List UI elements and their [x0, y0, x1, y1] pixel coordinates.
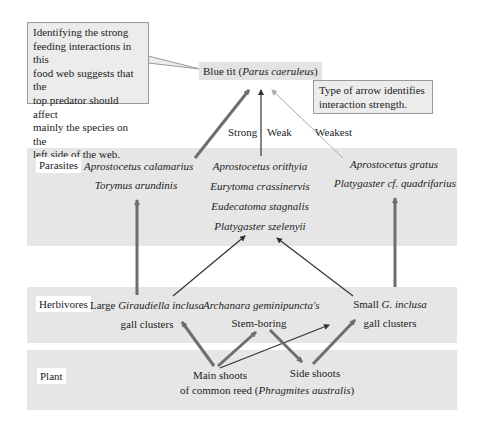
arrow-strong: [195, 90, 249, 158]
strong-label: Strong: [228, 125, 257, 139]
legend-line: interaction strength.: [319, 98, 427, 112]
weakest-label: Weakest: [315, 125, 352, 139]
arrow-small-to-platygaster: [277, 238, 353, 296]
herbivore-small-g-inclusa: Small G. inclusa: [350, 297, 430, 311]
plant-label: Plant: [37, 368, 66, 384]
herbivores-label: Herbivores: [36, 296, 91, 312]
plant-side-shoots: Side shoots: [280, 366, 350, 380]
parasite-aprostocetus-orithyia: Aprostocetus orithyia: [205, 159, 315, 173]
parasite-platygaster-quadrifarius: Platygaster cf. quadrifarius: [334, 176, 454, 190]
herbivore-prefix: Large: [90, 299, 118, 311]
plant-common-name: of common reed (: [180, 384, 259, 396]
herbivore-species: Giraudiella inclusa: [118, 299, 204, 311]
plant-latin-name: Phragmites australis: [259, 384, 351, 396]
parasite-eurytoma-crassinervis: Eurytoma crassinervis: [205, 179, 315, 193]
predator-latin: Parus caeruleus: [242, 65, 314, 77]
strong-interactions-callout: Identifying the strong feeding interacti…: [27, 22, 149, 104]
arrow-main-to-small: [220, 325, 329, 368]
callout-line: food web suggests that the: [33, 67, 143, 94]
parasite-aprostocetus-calamarius: Aprostocetus calamarius: [84, 159, 188, 173]
arrow-large-to-platygaster: [173, 236, 245, 296]
plant-paren: ): [350, 384, 354, 396]
callout-pointer: [148, 56, 200, 69]
herbivore-prefix: Small: [353, 298, 381, 310]
herbivore-large-giraudiella: Large Giraudiella inclusa: [87, 298, 207, 312]
callout-line: feeding interactions in this: [33, 40, 143, 67]
herbivore-stem-boring: Stem-boring: [203, 316, 315, 330]
herbivore-species: G. inclusa: [382, 298, 427, 310]
parasite-platygaster-szelenyii: Platygaster szelenyii: [205, 219, 315, 233]
parasite-aprostocetus-gratus: Aprostocetus gratus: [334, 157, 454, 171]
callout-line: mainly the species on the: [33, 121, 143, 148]
parasites-label: Parasites: [36, 157, 81, 173]
predator-name: Blue tit: [203, 65, 236, 77]
callout-line: Identifying the strong: [33, 26, 143, 40]
plant-common-reed: of common reed (Phragmites australis): [180, 383, 350, 397]
legend-line: Type of arrow identifies: [319, 84, 427, 98]
parasite-torymus-arundinis: Torymus arundinis: [84, 178, 188, 192]
herbivore-small-gall-clusters: gall clusters: [350, 316, 430, 330]
herbivore-archanara: Archanara geminipuncta's: [203, 298, 315, 312]
plant-main-shoots: Main shoots: [185, 368, 255, 382]
arrow-legend-callout: Type of arrow identifies interaction str…: [313, 80, 433, 114]
weak-label: Weak: [267, 125, 292, 139]
callout-line: top predator should affect: [33, 94, 143, 121]
herbivore-large-gall-clusters: gall clusters: [87, 317, 207, 331]
blue-tit-node: Blue tit (Parus caeruleus): [199, 62, 322, 80]
arrow-side-to-small: [313, 320, 355, 364]
parasite-eudecatoma-stagnalis: Eudecatoma stagnalis: [205, 199, 315, 213]
